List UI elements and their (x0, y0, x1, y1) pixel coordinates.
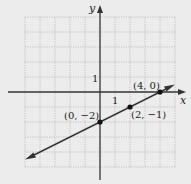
line-arrow-lower-icon (25, 153, 36, 160)
point-label-0-neg2: (0, −2) (64, 111, 99, 121)
coordinate-plane (0, 0, 191, 184)
y-tick-label: 1 (92, 74, 98, 84)
x-axis-label: x (180, 95, 186, 106)
line-arrow-upper-icon (164, 85, 175, 92)
point-label-4-0: (4, 0) (133, 81, 160, 91)
point-label-2-neg1: (2, −1) (131, 110, 166, 120)
y-axis-arrow-icon (97, 5, 103, 13)
y-axis-label: y (89, 3, 95, 14)
x-tick-label: 1 (112, 96, 118, 106)
